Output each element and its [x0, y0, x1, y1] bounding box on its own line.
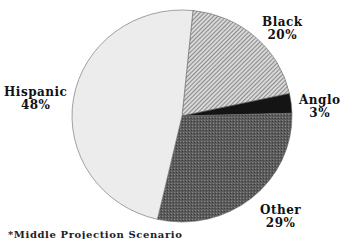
label-hispanic-pct: 48%	[4, 99, 67, 112]
label-anglo: Anglo 3%	[299, 94, 341, 120]
footnote: *Middle Projection Scenario	[8, 229, 182, 239]
label-hispanic: Hispanic 48%	[4, 86, 67, 112]
label-black: Black 20%	[262, 16, 303, 42]
label-anglo-pct: 3%	[299, 107, 341, 120]
label-other-pct: 29%	[260, 217, 301, 230]
label-black-pct: 20%	[262, 29, 303, 42]
label-other: Other 29%	[260, 204, 301, 230]
pie-slices	[72, 10, 292, 222]
